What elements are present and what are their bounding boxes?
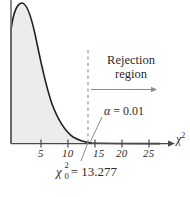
rejection-region-label-line2: region xyxy=(95,67,167,81)
x-axis-title-exponent: 2 xyxy=(181,131,185,140)
critical-value-label: χ20= 13.277 xyxy=(56,165,117,178)
x-tick-label-25: 25 xyxy=(143,148,154,159)
alpha-label: α = 0.01 xyxy=(104,105,144,117)
rejection-region-label: Rejection region xyxy=(95,53,167,82)
critical-value-chi: χ xyxy=(56,164,62,179)
rejection-region-label-line1: Rejection xyxy=(95,53,167,67)
alpha-value: = 0.01 xyxy=(110,104,144,118)
shaded-area-under-curve xyxy=(11,3,92,143)
critical-value-number: = 13.277 xyxy=(71,164,117,179)
x-tick-label-5: 5 xyxy=(38,148,44,159)
x-axis-arrowhead xyxy=(168,140,175,146)
x-axis-title: χ2 xyxy=(176,133,185,145)
x-tick-label-20: 20 xyxy=(116,148,127,159)
alpha-leader-line xyxy=(91,117,103,142)
x-tick-label-15: 15 xyxy=(93,148,104,159)
rejection-region-arrowhead xyxy=(151,87,157,92)
x-tick-label-10: 10 xyxy=(62,148,73,159)
critical-value-subscript: 0 xyxy=(65,172,69,181)
critical-value-symbol: χ20 xyxy=(56,165,62,178)
chi-square-rejection-region-figure: 5 10 15 20 25 χ2 Rejection region α = 0.… xyxy=(0,0,190,197)
critical-value-exponent: 2 xyxy=(65,161,69,170)
